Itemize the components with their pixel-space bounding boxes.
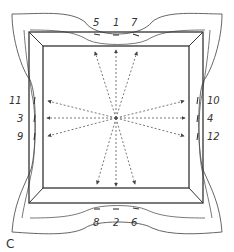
label-bottom-2: 2 (113, 217, 119, 228)
label-top-1: 1 (113, 17, 119, 28)
center-point (115, 117, 118, 120)
label-left-11: 11 (9, 95, 22, 106)
right-fold-line (199, 30, 212, 218)
label-right-10: 10 (207, 95, 220, 106)
label-bottom-8: 8 (93, 217, 99, 228)
frame-diagram: 5 1 7 8 2 6 11 3 9 10 4 12 C (0, 0, 234, 252)
label-bottom-6: 6 (131, 217, 137, 228)
label-top-5: 5 (93, 17, 99, 28)
label-right-12: 12 (207, 131, 220, 142)
figure-caption: C (6, 237, 14, 251)
label-top-7: 7 (131, 17, 138, 28)
label-right-4: 4 (207, 113, 213, 124)
label-left-9: 9 (17, 131, 23, 142)
label-left-3: 3 (17, 113, 23, 124)
